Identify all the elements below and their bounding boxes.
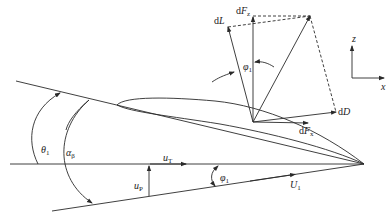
label-axis-x: x (381, 82, 385, 92)
resultant-arrow (253, 16, 310, 122)
label-dD: dD (338, 107, 350, 117)
label-theta1: θ1 (41, 145, 49, 157)
label-dL: ddLL (214, 16, 225, 26)
label-alpha-beta: αβ (66, 148, 75, 160)
blade-element-diagram: ddLL dFz φ1 dD dFx θ1 αβ uT uP φ1 U1 z x (0, 0, 390, 220)
dFx-arrow (253, 122, 308, 123)
dL-arrow (228, 27, 253, 122)
label-phi1-top: φ1 (243, 62, 252, 74)
label-phi1-bottom: φ1 (220, 173, 229, 185)
dD-arrow (253, 112, 336, 122)
airfoil (117, 98, 364, 164)
diagram-canvas (0, 0, 390, 220)
label-axis-z: z (352, 34, 356, 44)
inflow-line (52, 164, 364, 211)
phi1-bottom-arc (212, 166, 218, 186)
u1-arrow (250, 174, 295, 181)
label-U1: U1 (290, 180, 301, 192)
label-uT: uT (163, 153, 172, 165)
label-dFz: dFz (236, 6, 250, 18)
label-uP: uP (134, 181, 143, 193)
label-dFx: dFx (299, 126, 314, 138)
